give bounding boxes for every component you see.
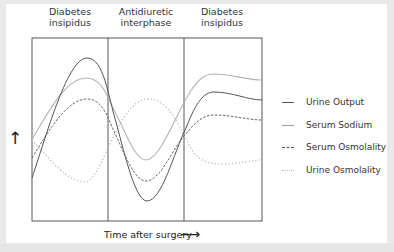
series-serum-osmolality	[32, 99, 262, 181]
legend-swatch-dotted	[282, 170, 294, 171]
legend-swatch-dashed	[282, 147, 294, 148]
legend-label: Serum Sodium	[306, 120, 372, 130]
legend-swatch-solid	[282, 102, 294, 103]
series-urine-output	[32, 58, 262, 201]
legend-label: Urine Osmolality	[306, 165, 381, 175]
plot-frame	[32, 38, 262, 221]
legend-swatch-solid-light	[282, 125, 294, 126]
x-axis-label: Time after surgery	[104, 229, 192, 240]
series-urine-osmolality	[32, 99, 262, 182]
series-serum-sodium	[32, 74, 262, 160]
legend-label: Urine Output	[306, 97, 364, 107]
x-axis-arrow-icon: ⟶	[180, 226, 200, 242]
legend-label: Serum Osmolality	[306, 142, 386, 152]
y-axis-arrow-icon: ↑	[8, 130, 22, 147]
